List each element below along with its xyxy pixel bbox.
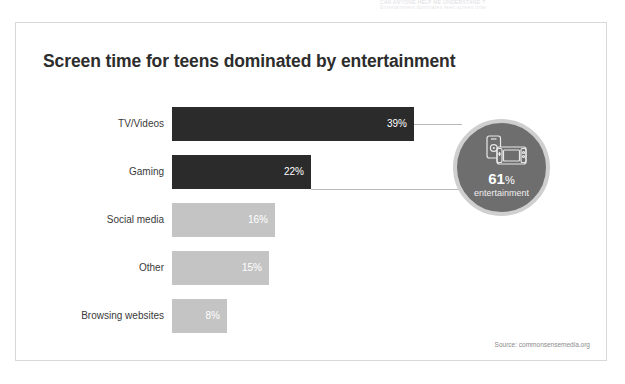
table-row: Other 15% [16,251,608,285]
leader-line-bottom [311,189,463,190]
bar-value-browsing-websites: 8% [206,299,220,333]
entertainment-icon-group [476,135,528,167]
table-row: Browsing websites 8% [16,299,608,333]
category-label-social-media: Social media [16,203,164,237]
bar-value-social-media: 16% [248,203,268,237]
bar-chart-plot: TV/Videos 39% Gaming 22% Social media 16… [16,23,608,362]
bar-social-media: 16% [172,203,275,237]
bar-value-tv-videos: 39% [387,107,407,141]
entertainment-callout-badge: 61% entertainment [453,119,550,216]
category-label-other: Other [16,251,164,285]
bar-gaming: 22% [172,155,311,189]
chart-card: Screen time for teens dominated by enter… [15,22,607,361]
callout-label: entertainment [457,188,546,199]
bar-browsing-websites: 8% [172,299,227,333]
category-label-gaming: Gaming [16,155,164,189]
callout-number: 61 [488,170,505,187]
cropped-header-strip: CAN ANYONE HELP ME UNDERSTAND ? Entertai… [380,0,610,9]
bar-value-gaming: 22% [284,155,304,189]
category-label-browsing-websites: Browsing websites [16,299,164,333]
category-label-tv-videos: TV/Videos [16,107,164,141]
bar-value-other: 15% [242,251,262,285]
callout-percent-symbol: % [505,174,515,186]
cropped-header-line-2: Entertainment dominates teen screen time [380,5,610,9]
callout-value: 61% [457,171,546,188]
source-note: Source: commonsensemedia.org [495,341,590,348]
bar-other: 15% [172,251,269,285]
bar-tv-videos: 39% [172,107,414,141]
